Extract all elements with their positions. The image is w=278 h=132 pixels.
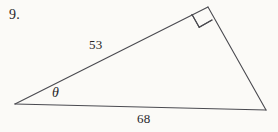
problem-number: 9. [9, 8, 20, 22]
right-angle-marker-edge-b [199, 20, 212, 27]
angle-label-theta: θ [52, 86, 59, 100]
triangle-side-base [15, 104, 266, 110]
triangle-side-right [208, 7, 266, 110]
side-label-base: 68 [137, 112, 151, 125]
side-label-left: 53 [89, 38, 103, 51]
triangle-figure: 9. 53 68 θ [0, 0, 278, 132]
right-angle-marker-edge-a [192, 15, 199, 28]
triangle-side-left [15, 7, 208, 104]
